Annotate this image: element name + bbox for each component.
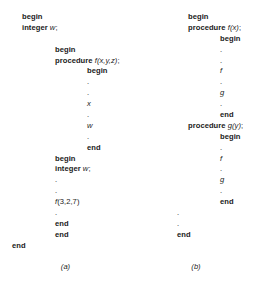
code-declaration-line: procedure f(x,y,z); xyxy=(0,56,131,67)
code-identifier: f(x,y,z) xyxy=(95,56,118,65)
code-keyword-line: end xyxy=(0,219,131,230)
code-keyword-line: end xyxy=(131,197,261,208)
code-keyword: procedure xyxy=(188,121,228,130)
code-declaration-line: procedure f(x); xyxy=(131,23,261,34)
code-punctuation: ; xyxy=(239,23,241,32)
code-elision-dot: . xyxy=(131,77,261,88)
code-declaration-line: procedure g(y); xyxy=(131,121,261,132)
code-identifier-line: g xyxy=(131,175,261,186)
code-elision-dot: . xyxy=(0,88,131,99)
code-punctuation: ; xyxy=(88,164,90,173)
code-keyword-line: end xyxy=(0,241,131,252)
code-keyword-line: end xyxy=(0,143,131,154)
figure-caption-b: (b) xyxy=(131,262,261,271)
code-elision-dot: . xyxy=(131,186,261,197)
code-keyword-line: begin xyxy=(0,66,131,77)
code-keyword-line: begin xyxy=(131,132,261,143)
code-elision-dot: . xyxy=(131,99,261,110)
code-keyword-line: begin xyxy=(0,12,131,23)
code-keyword-line: end xyxy=(0,230,131,241)
code-elision-dot: . xyxy=(0,186,131,197)
code-keyword-line: begin xyxy=(0,45,131,56)
code-identifier: g(y) xyxy=(228,121,241,130)
code-panel-a: begininteger w; beginprocedure f(x,y,z);… xyxy=(0,12,131,252)
code-identifier: f(x) xyxy=(228,23,239,32)
code-keyword: integer xyxy=(55,164,83,173)
code-elision-dot: . xyxy=(0,110,131,121)
code-keyword: procedure xyxy=(55,56,95,65)
code-punctuation: ; xyxy=(241,121,243,130)
code-keyword: integer xyxy=(22,23,50,32)
code-keyword-line: begin xyxy=(0,154,131,165)
code-keyword-line: end xyxy=(131,110,261,121)
code-keyword: procedure xyxy=(188,23,228,32)
code-keyword-line: end xyxy=(131,230,261,241)
code-identifier-line: g xyxy=(131,88,261,99)
code-blank-line xyxy=(0,34,131,45)
code-identifier-line: f xyxy=(131,66,261,77)
code-elision-dot: . xyxy=(131,143,261,154)
code-declaration-line: integer w; xyxy=(0,164,131,175)
code-identifier-line: f xyxy=(131,154,261,165)
pseudocode-figure: begininteger w; beginprocedure f(x,y,z);… xyxy=(0,0,261,293)
code-elision-dot: . xyxy=(131,45,261,56)
code-arguments: (3,2,7) xyxy=(57,197,79,206)
code-identifier-line: x xyxy=(0,99,131,110)
code-call-line: f(3,2,7) xyxy=(0,197,131,208)
code-elision-dot: . xyxy=(131,164,261,175)
code-elision-dot: . xyxy=(131,208,261,219)
code-panel-b: beginprocedure f(x);begin..f.g.endproced… xyxy=(131,12,261,241)
code-declaration-line: integer w; xyxy=(0,23,131,34)
code-elision-dot: . xyxy=(131,219,261,230)
code-identifier-line: w xyxy=(0,121,131,132)
figure-caption-a: (a) xyxy=(0,262,131,271)
code-keyword-line: begin xyxy=(131,34,261,45)
code-elision-dot: . xyxy=(0,132,131,143)
code-punctuation: ; xyxy=(117,56,119,65)
code-elision-dot: . xyxy=(0,77,131,88)
code-elision-dot: . xyxy=(0,175,131,186)
code-keyword-line: begin xyxy=(131,12,261,23)
code-elision-dot: . xyxy=(0,208,131,219)
code-elision-dot: . xyxy=(131,56,261,67)
code-punctuation: ; xyxy=(55,23,57,32)
